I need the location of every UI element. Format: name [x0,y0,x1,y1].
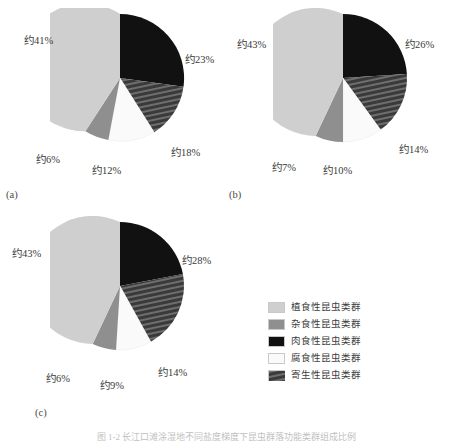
legend-swatch-saprophagous [268,353,285,364]
panel-tag-a: (a) [6,190,18,201]
pie-slice-a-carnivorous [120,14,184,87]
legend-label-saprophagous: 腐食性昆虫类群 [291,354,361,364]
chart-legend: 植食性昆虫类群 杂食性昆虫类群 肉食性昆虫类群 腐食性昆虫类群 [268,299,438,384]
pie-label-a-parasitic: 约18% [171,148,200,159]
legend-item-phytophagous: 植食性昆虫类群 [268,299,438,316]
legend-label-phytophagous: 植食性昆虫类群 [291,303,361,313]
pie-label-a-carnivorous: 约23% [185,55,214,66]
legend-item-parasitic: 寄生性昆虫类群 [268,367,438,384]
figure-container: 约41% 约23% 约18% 约12% 约6% (a) [0,0,453,441]
legend-item-omnivorous: 杂食性昆虫类群 [268,316,438,333]
pie-label-b-carnivorous: 约26% [405,40,434,51]
pie-panel-b: 约43% 约26% 约14% 约10% 约7% (b) [223,0,453,210]
pie-label-c-carnivorous: 约28% [182,256,211,267]
legend-item-saprophagous: 腐食性昆虫类群 [268,350,438,367]
pie-label-b-phytophagous: 约43% [237,40,266,51]
figure-caption: 图 1-2 长江口滩涂湿地不同盐度梯度下昆虫群落功能类群组成比例 [0,430,453,441]
pie-label-a-saprophagous: 约12% [92,166,121,177]
legend-label-parasitic: 寄生性昆虫类群 [291,371,361,381]
pie-label-c-saprophagous: 约9% [100,381,124,392]
pie-slice-b-carnivorous [343,14,407,78]
pie-label-c-omnivorous: 约6% [46,374,70,385]
legend-swatch-phytophagous [268,302,285,313]
pie-label-b-saprophagous: 约10% [323,166,352,177]
legend-swatch-parasitic [268,370,285,381]
pie-svg-a [50,8,190,148]
pie-svg-b [273,8,413,148]
pie-chart-c [50,216,190,356]
panel-tag-b: (b) [229,190,241,201]
pie-label-c-phytophagous: 约43% [12,249,41,260]
panel-tag-c: (c) [35,408,47,419]
legend-swatch-carnivorous [268,336,285,347]
pie-chart-b [273,8,413,148]
pie-svg-c [50,216,190,356]
legend-label-omnivorous: 杂食性昆虫类群 [291,320,361,330]
pie-panel-c: 约43% 约28% 约14% 约9% 约6% (c) [0,208,230,423]
pie-chart-a [50,8,190,148]
pie-label-a-phytophagous: 约41% [24,36,53,47]
legend-item-carnivorous: 肉食性昆虫类群 [268,333,438,350]
pie-label-b-parasitic: 约14% [399,145,428,156]
pie-label-c-parasitic: 约14% [158,368,187,379]
pie-label-b-omnivorous: 约7% [272,163,296,174]
legend-swatch-omnivorous [268,319,285,330]
legend-label-carnivorous: 肉食性昆虫类群 [291,337,361,347]
pie-panel-a: 约41% 约23% 约18% 约12% 约6% (a) [0,0,230,210]
pie-label-a-omnivorous: 约6% [36,155,60,166]
